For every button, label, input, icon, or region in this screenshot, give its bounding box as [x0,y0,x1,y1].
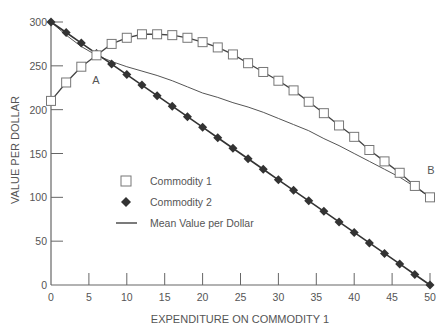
commodity-1-marker [213,43,222,52]
commodity-1-marker [183,33,192,42]
legend-commodity-2-marker [121,197,131,207]
x-tick-label: 30 [273,291,285,303]
series-group [47,18,435,290]
commodity-1-marker [153,30,162,39]
x-tick-label: 15 [159,291,171,303]
commodity-1-marker [304,97,313,106]
commodity-1-marker [47,96,56,105]
legend-commodity-2-label: Commodity 2 [150,196,212,208]
commodity-1-marker [77,62,86,71]
commodity-1-marker [289,86,298,95]
x-tick-label: 10 [121,291,133,303]
y-tick-label: 200 [29,104,47,116]
commodity-1-marker [426,193,435,202]
x-tick-label: 35 [310,291,322,303]
chart: 05101520253035404550050100150200250300 E… [0,0,448,334]
y-tick-label: 300 [29,16,47,28]
commodity-1-marker [319,109,328,118]
y-tick-label: 250 [29,60,47,72]
x-tick-label: 20 [197,291,209,303]
commodity-1-marker [228,50,237,59]
commodity-1-marker [410,181,419,190]
y-tick-label: 0 [41,279,47,291]
commodity-1-marker [62,78,71,87]
commodity-1-line [51,34,430,197]
legend-mean-label: Mean Value per Dollar [150,217,254,229]
x-tick-label: 50 [424,291,436,303]
y-tick-label: 150 [29,148,47,160]
legend-commodity-1-label: Commodity 1 [150,175,212,187]
y-tick-label: 50 [35,235,47,247]
x-tick-label: 5 [86,291,92,303]
x-tick-label: 25 [235,291,247,303]
annotation-b: B [427,164,434,176]
commodity-1-marker [168,31,177,40]
x-tick-label: 40 [348,291,360,303]
x-axis-label: EXPENDITURE ON COMMODITY 1 [151,313,329,325]
y-axis-label: VALUE PER DOLLAR [9,96,21,204]
annotation-a: A [92,74,100,86]
commodity-1-marker [259,67,268,76]
legend: Commodity 1 Commodity 2 Mean Value per D… [116,175,254,229]
commodity-1-marker [350,132,359,141]
commodity-1-marker [274,76,283,85]
x-tick-label: 45 [386,291,398,303]
commodity-1-marker [122,33,131,42]
commodity-1-marker [395,168,404,177]
commodity-1-marker [244,59,253,68]
commodity-1-marker [137,30,146,39]
legend-commodity-1-marker [121,176,131,186]
commodity-1-marker [198,38,207,47]
commodity-1-marker [92,51,101,60]
commodity-1-marker [107,39,116,48]
commodity-1-marker [380,157,389,166]
y-tick-label: 100 [29,191,47,203]
commodity-1-marker [365,145,374,154]
x-tick-label: 0 [48,291,54,303]
commodity-1-marker [335,121,344,130]
